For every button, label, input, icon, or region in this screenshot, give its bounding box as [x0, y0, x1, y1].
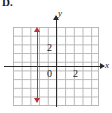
x-axis-tick-label-2: 2	[73, 69, 78, 79]
graph-line-arrow-up-icon	[34, 27, 40, 32]
x-axis-line	[4, 66, 104, 67]
origin-tick-label-0: 0	[47, 69, 52, 79]
y-axis-label: y	[58, 9, 62, 18]
graph-line-arrow-down-icon	[34, 98, 40, 103]
y-axis-tick-label-2: 2	[47, 43, 52, 53]
x-axis-label: x	[105, 61, 109, 70]
graph-vertical-line	[37, 31, 38, 99]
choice-label: D.	[2, 0, 13, 8]
graph-figure: D. y x 2 0 2	[0, 0, 112, 113]
y-axis-line	[56, 16, 57, 107]
